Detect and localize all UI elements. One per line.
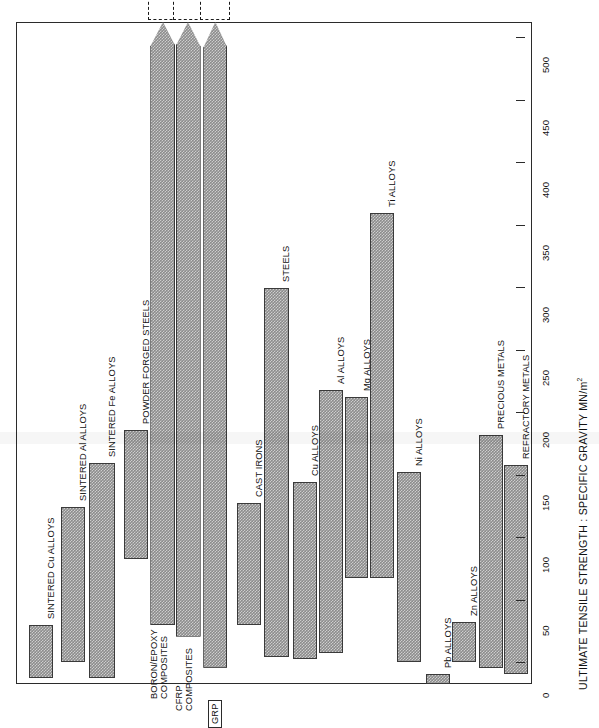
bar-label-ti-alloys: Ti ALLOYS xyxy=(387,161,397,208)
bar-steels xyxy=(264,288,289,656)
bar-boron-epoxy-composites xyxy=(150,22,175,625)
bar-label-line: BORON/EPOXY xyxy=(149,629,159,699)
axis-tick-100 xyxy=(516,537,525,538)
axis-tick-50 xyxy=(516,600,525,601)
axis-tick-label-500: 500 xyxy=(540,57,551,73)
bar-label-line: Al ALLOYS xyxy=(336,337,346,384)
bar-label-ni-alloys: Ni ALLOYS xyxy=(414,418,424,466)
bar-label-line: SINTERED Al ALLOYS xyxy=(78,403,88,500)
axis-tick-300 xyxy=(516,287,525,288)
axis-tick-450 xyxy=(516,100,525,101)
bar-label-line: Ti ALLOYS xyxy=(387,161,397,208)
bar-sintered-fe-alloys xyxy=(89,463,115,678)
bar-precious-metals xyxy=(479,435,503,667)
value-axis-ticks xyxy=(516,0,534,662)
offscale-value-callout: 690 MN/m2 xyxy=(200,0,230,20)
bar-label-line: PRECIOUS METALS xyxy=(496,340,506,429)
bar-mg-alloys xyxy=(345,397,368,578)
bars-layer: SINTERED Cu ALLOYSSINTERED Al ALLOYSSINT… xyxy=(16,22,532,684)
axis-title-superscript: 2 xyxy=(576,378,583,382)
bar-label-line: COMPOSITES xyxy=(184,648,194,711)
bar-label-sintered-cu-alloys: SINTERED Cu ALLOYS xyxy=(46,518,56,620)
bar-powder-forged-steels xyxy=(124,430,148,559)
bar-label-line: COMPOSITES xyxy=(159,629,169,699)
bar-ni-alloys xyxy=(397,472,421,662)
bar-al-alloys xyxy=(319,390,343,652)
bar-label-line: Ni ALLOYS xyxy=(414,418,424,466)
offscale-value-callout: 960 MN/m2 xyxy=(173,0,203,20)
axis-tick-label-150: 150 xyxy=(540,495,551,511)
axis-title-text: ULTIMATE TENSILE STRENGTH : SPECIFIC GRA… xyxy=(577,381,589,690)
axis-tick-label-350: 350 xyxy=(540,245,551,261)
axis-tick-200 xyxy=(516,412,525,413)
bar-label-sintered-fe-alloys: SINTERED Fe ALLOYS xyxy=(107,356,117,456)
axis-tick-label-300: 300 xyxy=(540,307,551,323)
bar-label-sintered-al-alloys: SINTERED Al ALLOYS xyxy=(78,403,88,500)
bar-sintered-al-alloys xyxy=(61,507,85,662)
bar-label-powder-forged-steels: POWDER FORGED STEELS xyxy=(141,300,151,424)
axis-tick-350 xyxy=(516,225,525,226)
axis-title: ULTIMATE TENSILE STRENGTH : SPECIFIC GRA… xyxy=(576,378,589,690)
bar-label-cfrp-composites: CFRPCOMPOSITES xyxy=(174,648,194,711)
axis-tick-250 xyxy=(516,350,525,351)
bar-label-line: GRP xyxy=(210,703,220,723)
bar-label-line: CAST IRONS xyxy=(254,439,264,497)
bar-zn-alloys xyxy=(452,622,476,662)
bar-cfrp-composites xyxy=(176,22,201,637)
axis-tick-label-400: 400 xyxy=(540,182,551,198)
bar-cu-alloys xyxy=(293,482,317,659)
bar-label-boron-epoxy-composites: BORON/EPOXYCOMPOSITES xyxy=(149,629,169,699)
bar-label-al-alloys: Al ALLOYS xyxy=(336,337,346,384)
axis-tick-label-250: 250 xyxy=(540,370,551,386)
bar-label-grp: GRP xyxy=(208,699,222,727)
bar-sintered-cu-alloys xyxy=(29,625,53,677)
axis-tick-label-0: 0 xyxy=(540,693,551,698)
axis-tick-500 xyxy=(516,37,525,38)
bar-label-precious-metals: PRECIOUS METALS xyxy=(496,340,506,429)
bar-label-line: STEELS xyxy=(281,246,291,282)
axis-tick-label-100: 100 xyxy=(540,557,551,573)
bar-label-steels: STEELS xyxy=(281,246,291,282)
bar-pb-alloys xyxy=(426,674,450,684)
bar-ti-alloys xyxy=(370,213,394,578)
axis-tick-0 xyxy=(516,662,525,663)
axis-tick-label-200: 200 xyxy=(540,432,551,448)
bar-label-line: CFRP xyxy=(174,648,184,711)
axis-tick-150 xyxy=(516,475,525,476)
bar-label-line: SINTERED Fe ALLOYS xyxy=(107,356,117,456)
bar-grp xyxy=(203,22,227,668)
bar-label-cast-irons: CAST IRONS xyxy=(254,439,264,497)
axis-tick-label-450: 450 xyxy=(540,120,551,136)
axis-tick-label-50: 50 xyxy=(540,625,551,636)
bar-cast-irons xyxy=(237,503,261,625)
bar-label-line: POWDER FORGED STEELS xyxy=(141,300,151,424)
axis-tick-400 xyxy=(516,162,525,163)
bar-label-line: SINTERED Cu ALLOYS xyxy=(46,518,56,620)
